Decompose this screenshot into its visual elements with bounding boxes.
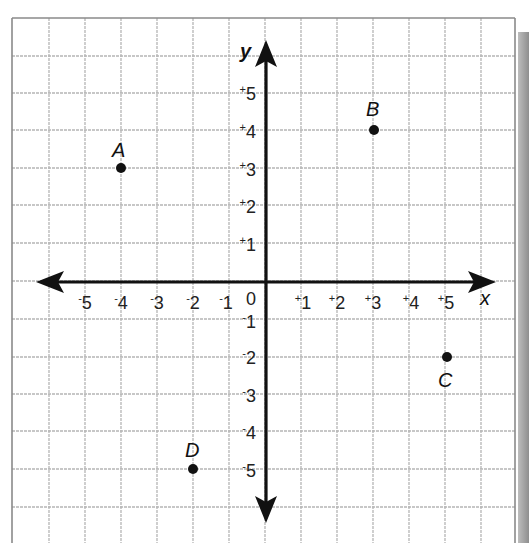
point-D: D xyxy=(185,439,199,474)
svg-text:-5: -5 xyxy=(242,460,256,481)
svg-text:+1: +1 xyxy=(240,234,256,255)
coordinate-plane: x y -5 -4 -3 -2 -1 0 +1 +2 +3 +4 +5 +5 +… xyxy=(0,0,529,543)
svg-text:+3: +3 xyxy=(240,159,256,180)
svg-text:+4: +4 xyxy=(240,121,256,142)
svg-text:-2: -2 xyxy=(242,347,256,368)
svg-text:-1: -1 xyxy=(219,292,233,313)
svg-text:+3: +3 xyxy=(365,292,381,313)
svg-text:-4: -4 xyxy=(114,292,128,313)
point-C: C xyxy=(438,352,453,391)
svg-text:C: C xyxy=(438,369,453,391)
svg-text:+5: +5 xyxy=(240,83,256,104)
svg-text:-4: -4 xyxy=(242,422,256,443)
svg-text:+1: +1 xyxy=(295,292,311,313)
svg-text:B: B xyxy=(366,98,379,120)
svg-text:-2: -2 xyxy=(186,292,200,313)
svg-text:-3: -3 xyxy=(150,292,164,313)
y-axis-label: y xyxy=(239,40,252,62)
svg-text:+5: +5 xyxy=(438,292,454,313)
svg-text:+2: +2 xyxy=(329,292,345,313)
svg-text:+2: +2 xyxy=(240,196,256,217)
x-axis-label: x xyxy=(479,287,491,309)
svg-text:D: D xyxy=(185,439,199,461)
svg-text:-1: -1 xyxy=(242,311,256,332)
origin-label: 0 xyxy=(246,289,256,309)
svg-text:A: A xyxy=(111,139,125,161)
svg-text:-3: -3 xyxy=(242,385,256,406)
svg-text:-5: -5 xyxy=(78,292,92,313)
svg-text:+4: +4 xyxy=(403,292,419,313)
